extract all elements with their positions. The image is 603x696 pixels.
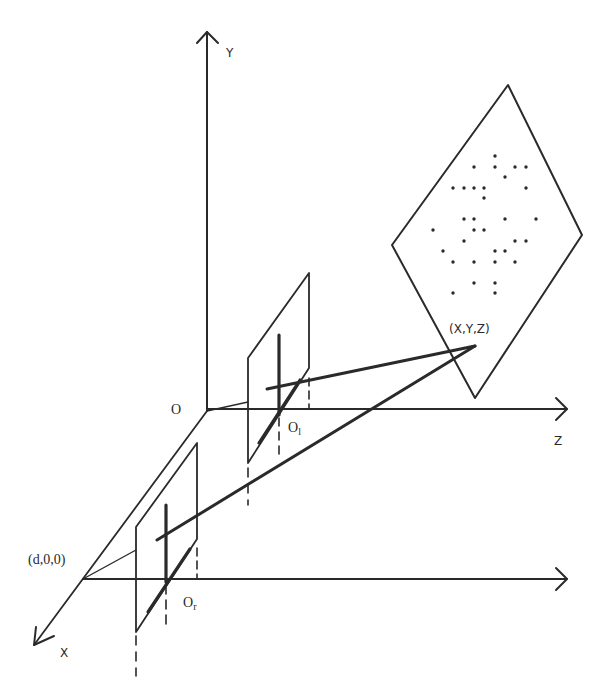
scene-dot [524,186,527,189]
scene-dot [451,260,454,263]
scene-dot [482,196,485,199]
scene-dot [513,260,516,263]
stereo-geometry-diagram: Y Z X O Ol Or (d,0,0) (X,Y,Z) [0,0,603,696]
scene-dot [493,165,496,168]
scene-points [431,154,537,294]
scene-dot [503,175,506,178]
left-center-label: Ol [288,420,301,437]
scene-dot [493,281,496,284]
scene-dot [431,228,434,231]
scene-dot [451,186,454,189]
ray-to-left-camera [267,346,475,389]
scene-dot [462,217,465,220]
scene-dot [472,260,475,263]
x-axis-label: X [60,646,68,660]
scene-dot [493,249,496,252]
diagram-canvas: Y Z X O Ol Or (d,0,0) (X,Y,Z) [0,0,603,696]
scene-dot [472,228,475,231]
scene-dot [513,239,516,242]
scene-dot [493,291,496,294]
ray-to-right-camera [157,346,475,540]
z-axis-label: Z [554,434,562,448]
scene-dot [482,186,485,189]
world-point-label: (X,Y,Z) [449,322,490,336]
scene-dot [472,281,475,284]
scene-dot [534,217,537,220]
scene-dot [472,165,475,168]
scene-dot [503,217,506,220]
scene-dot [493,154,496,157]
y-axis-label: Y [225,46,234,60]
scene-dot [513,165,516,168]
y-axis [197,32,218,411]
scene-dot [462,239,465,242]
x-axis [34,411,207,645]
left-image-plane [207,273,309,505]
right-camera-optical-axis [83,568,567,590]
scene-plane [392,85,582,398]
scene-dot [524,165,527,168]
baseline-point-label: (d,0,0) [28,552,66,568]
projection-rays [157,346,475,540]
scene-dot [451,291,454,294]
scene-dot [524,239,527,242]
right-image-plane [83,443,197,676]
scene-dot [472,217,475,220]
scene-dot [482,228,485,231]
scene-dot [441,249,444,252]
right-center-label: Or [183,595,197,612]
scene-dot [462,186,465,189]
scene-dot [493,260,496,263]
origin-label: O [171,402,181,417]
scene-dot [472,186,475,189]
scene-dot [503,249,506,252]
